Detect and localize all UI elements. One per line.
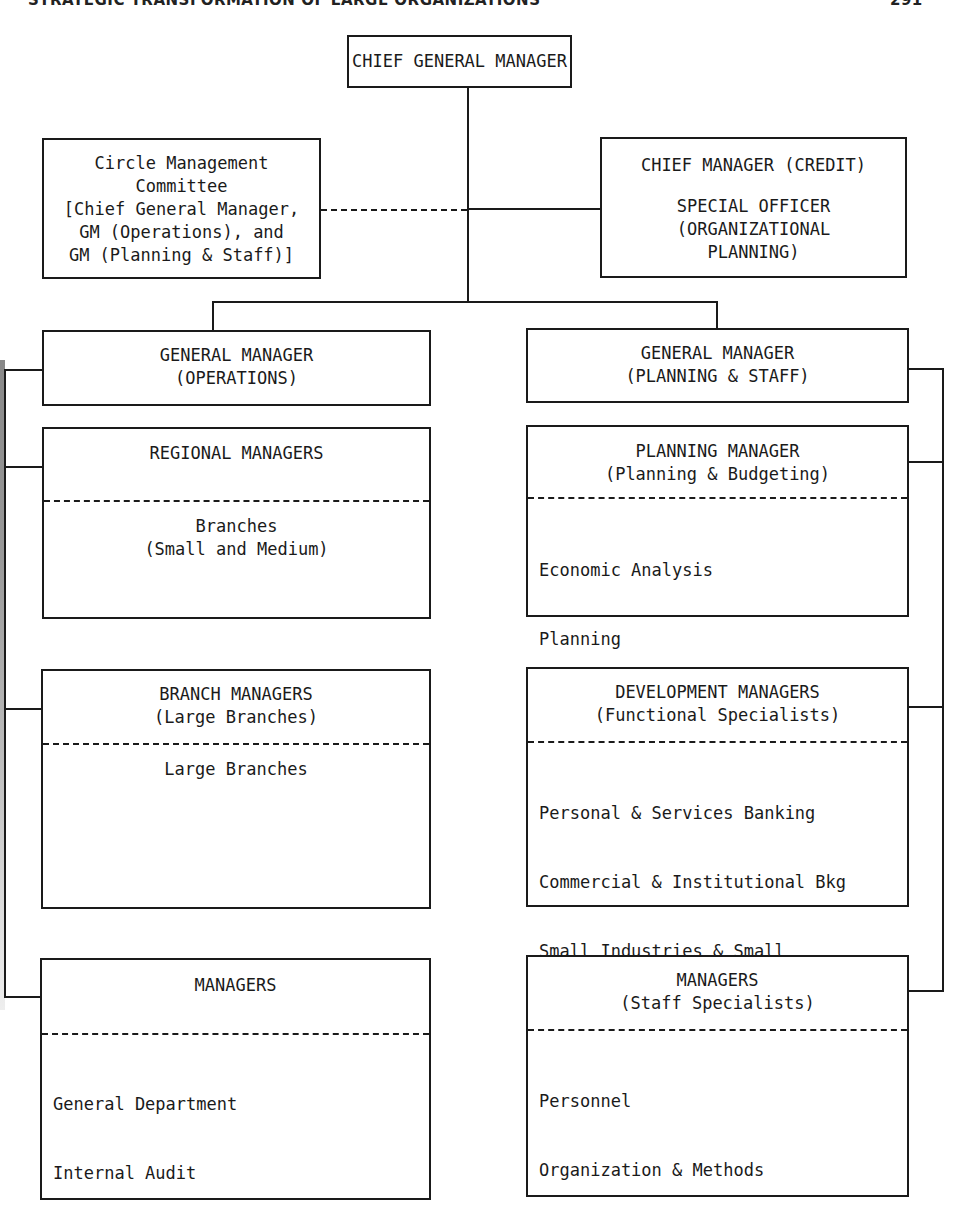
connector-right-development xyxy=(908,706,944,708)
chief-general-manager-box: CHIEF GENERAL MANAGER xyxy=(347,35,572,88)
gm-operations-label: GENERAL MANAGER (OPERATIONS) xyxy=(44,332,429,390)
branch-managers-title: BRANCH MANAGERS (Large Branches) xyxy=(43,671,429,729)
connector-right-planning xyxy=(908,461,944,463)
connector-drop-left xyxy=(212,301,214,330)
section-divider xyxy=(528,741,907,743)
gm-planning-staff-box: GENERAL MANAGER (PLANNING & STAFF) xyxy=(526,328,909,403)
circle-management-committee-label: Circle Management Committee [Chief Gener… xyxy=(44,140,319,267)
circle-management-committee-box: Circle Management Committee [Chief Gener… xyxy=(42,138,321,279)
section-divider xyxy=(528,497,907,499)
list-item: Personal & Services Banking xyxy=(539,802,907,825)
managers-operations-list: General Department Internal Audit Expans… xyxy=(42,1047,429,1219)
section-divider xyxy=(528,1029,907,1031)
section-divider xyxy=(43,743,429,745)
list-item: Commercial & Institutional Bkg xyxy=(539,871,907,894)
list-item: Personnel xyxy=(539,1090,907,1113)
connector-right-gm xyxy=(908,368,944,370)
regional-managers-title: REGIONAL MANAGERS xyxy=(44,429,429,465)
branch-managers-box: BRANCH MANAGERS (Large Branches) Large B… xyxy=(41,669,431,909)
connector-left-branch xyxy=(4,708,42,710)
connector-right-staff xyxy=(908,990,944,992)
section-divider xyxy=(44,500,429,502)
connector-dashed-committee xyxy=(321,209,467,211)
managers-operations-title: MANAGERS xyxy=(42,960,429,997)
branch-managers-body: Large Branches xyxy=(43,758,429,781)
regional-managers-box: REGIONAL MANAGERS Branches (Small and Me… xyxy=(42,427,431,619)
managers-operations-box: MANAGERS General Department Internal Aud… xyxy=(40,958,431,1200)
chief-manager-credit-label: CHIEF MANAGER (CREDIT) xyxy=(602,139,905,177)
gm-operations-box: GENERAL MANAGER (OPERATIONS) xyxy=(42,330,431,406)
development-managers-box: DEVELOPMENT MANAGERS (Functional Special… xyxy=(526,667,909,907)
planning-manager-box: PLANNING MANAGER (Planning & Budgeting) … xyxy=(526,425,909,617)
development-managers-title: DEVELOPMENT MANAGERS (Functional Special… xyxy=(528,669,907,727)
list-item: Economic Analysis xyxy=(539,559,907,582)
connector-left-spine xyxy=(4,369,6,998)
list-item: Internal Audit xyxy=(53,1162,429,1185)
managers-staff-specialists-title: MANAGERS (Staff Specialists) xyxy=(528,957,907,1015)
page-header: STRATEGIC TRANSFORMATION OF LARGE ORGANI… xyxy=(28,0,928,7)
managers-staff-specialists-box: MANAGERS (Staff Specialists) Personnel O… xyxy=(526,955,909,1197)
planning-manager-title: PLANNING MANAGER (Planning & Budgeting) xyxy=(528,427,907,486)
managers-staff-specialists-list: Personnel Organization & Methods Public … xyxy=(528,1044,907,1219)
list-item: General Department xyxy=(53,1093,429,1116)
connector-drop-right xyxy=(716,301,718,329)
list-item: Organization & Methods xyxy=(539,1159,907,1182)
connector-left-gm xyxy=(4,369,42,371)
connector-left-managers xyxy=(4,996,40,998)
connector-trunk xyxy=(467,87,469,303)
chief-general-manager-label: CHIEF GENERAL MANAGER xyxy=(349,37,570,73)
connector-split-bar xyxy=(212,301,718,303)
special-officer-label: SPECIAL OFFICER (ORGANIZATIONAL PLANNING… xyxy=(602,177,905,264)
gm-planning-staff-label: GENERAL MANAGER (PLANNING & STAFF) xyxy=(528,330,907,388)
connector-credit xyxy=(467,208,600,210)
regional-managers-body: Branches (Small and Medium) xyxy=(44,515,429,561)
list-item: Planning xyxy=(539,628,907,651)
chief-manager-credit-box: CHIEF MANAGER (CREDIT) SPECIAL OFFICER (… xyxy=(600,137,907,278)
running-head-title: STRATEGIC TRANSFORMATION OF LARGE ORGANI… xyxy=(28,0,540,9)
connector-left-regional xyxy=(4,466,42,468)
section-divider xyxy=(42,1033,429,1035)
page-number: 291 xyxy=(890,0,923,9)
